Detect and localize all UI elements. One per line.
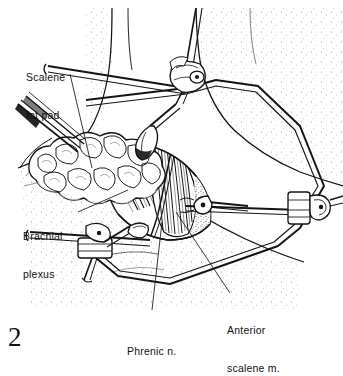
label-brachial-plexus-line2: plexus	[23, 268, 63, 281]
label-phrenic-nerve: Phrenic n.	[127, 320, 176, 376]
label-scalene-fat-pad: Scalene fat pad	[26, 46, 65, 146]
patient-anatomy	[18, 8, 343, 312]
label-anterior-scalene-muscle: Anterior scalene m.	[227, 299, 280, 376]
label-brachial-plexus-line1: Brachial	[23, 230, 63, 243]
clamp-right[interactable]	[288, 192, 343, 224]
label-phrenic-nerve-line1: Phrenic n.	[127, 345, 176, 358]
shoulder-chest	[190, 8, 343, 194]
label-scalene-fat-pad-line1: Scalene	[26, 71, 65, 84]
clamp-top[interactable]	[170, 57, 205, 104]
figure-number: 2	[8, 322, 22, 352]
label-anterior-scalene-line1: Anterior	[227, 324, 280, 337]
label-scalene-fat-pad-line2: fat pad	[26, 109, 65, 122]
label-anterior-scalene-line2: scalene m.	[227, 362, 280, 375]
label-brachial-plexus: Brachial plexus	[23, 205, 63, 305]
